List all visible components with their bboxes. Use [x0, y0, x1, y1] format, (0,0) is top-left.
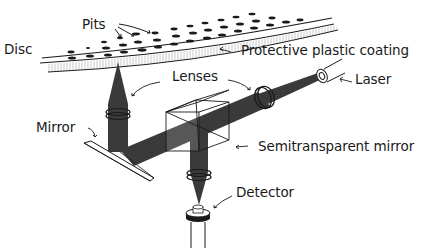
label-lenses: Lenses	[172, 70, 218, 84]
label-disc: Disc	[4, 43, 32, 57]
label-coating: Protective plastic coating	[241, 44, 409, 58]
pits-arrows	[115, 24, 150, 37]
laser	[315, 59, 345, 84]
label-semitransparent-mirror: Semitransparent mirror	[258, 140, 414, 154]
label-laser: Laser	[355, 73, 391, 87]
label-mirror: Mirror	[36, 121, 75, 135]
label-pits: Pits	[82, 18, 106, 32]
label-detector: Detector	[236, 186, 294, 200]
detector	[186, 205, 210, 248]
